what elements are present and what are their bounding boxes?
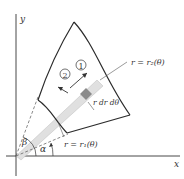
left-edge xyxy=(38,22,74,100)
element-label: r dr dθ xyxy=(93,98,120,107)
inner-curve-leader xyxy=(58,122,64,137)
step2-label: 2 xyxy=(63,71,68,80)
outer-curve-label: r = r₂(θ) xyxy=(131,58,165,67)
inner-curve-label: r = r₁(θ) xyxy=(64,140,98,149)
step2-arrowhead xyxy=(58,87,63,91)
polar-region-diagram: y x α β 1 2 r = r₂(θ) r dr dθ r = r₁(θ) xyxy=(0,0,184,179)
right-edge xyxy=(67,115,130,133)
x-axis-label: x xyxy=(174,159,179,169)
beta-label: β xyxy=(21,137,27,147)
alpha-label: α xyxy=(40,144,46,154)
y-axis-label: y xyxy=(19,14,26,24)
step1-label: 1 xyxy=(79,62,84,71)
alpha-arrowhead xyxy=(49,143,53,147)
